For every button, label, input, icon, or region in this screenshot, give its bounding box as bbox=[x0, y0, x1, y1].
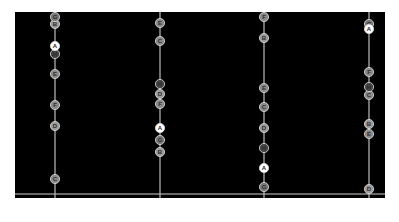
svg-text:E: E bbox=[262, 85, 266, 91]
axis-label-fuel: Fuel bbox=[255, 200, 273, 211]
svg-text:A: A bbox=[262, 165, 267, 171]
svg-text:A: A bbox=[367, 26, 372, 32]
marker-d-fuel: D bbox=[259, 123, 268, 132]
marker-g-fuel: G bbox=[259, 182, 268, 191]
marker-e-fuel: E bbox=[259, 83, 268, 92]
marker-f-detection: F bbox=[364, 67, 373, 76]
marker-e-quality: E bbox=[50, 69, 59, 78]
svg-text:F: F bbox=[262, 14, 266, 20]
svg-text:C: C bbox=[262, 104, 267, 110]
svg-text:H: H bbox=[262, 145, 266, 151]
svg-text:C: C bbox=[53, 176, 58, 182]
marker-h-time: H bbox=[155, 79, 164, 88]
svg-text:G: G bbox=[53, 14, 58, 20]
marker-f-quality: F bbox=[50, 100, 59, 109]
svg-text:H: H bbox=[53, 51, 57, 57]
marker-f-time: F bbox=[155, 99, 164, 108]
marker-e-detection: E bbox=[364, 129, 373, 138]
marker-b-fuel: B bbox=[259, 33, 268, 42]
svg-text:H: H bbox=[367, 84, 371, 90]
marker-a-quality: A bbox=[50, 41, 59, 50]
marker-g-quality: G bbox=[50, 12, 59, 21]
marker-b-time: B bbox=[155, 147, 164, 156]
svg-text:B: B bbox=[158, 149, 163, 155]
svg-text:B: B bbox=[53, 21, 58, 27]
svg-text:A: A bbox=[53, 43, 58, 49]
svg-text:E: E bbox=[367, 131, 371, 137]
svg-text:D: D bbox=[158, 91, 163, 97]
svg-text:G: G bbox=[262, 184, 267, 190]
marker-c-time: C bbox=[155, 36, 164, 45]
marker-a-detection: A bbox=[364, 24, 373, 33]
svg-text:F: F bbox=[53, 102, 57, 108]
marker-f-fuel: F bbox=[259, 12, 268, 21]
plot-area bbox=[15, 12, 385, 198]
svg-text:D: D bbox=[367, 186, 372, 192]
marker-d-quality: D bbox=[50, 121, 59, 130]
svg-text:B: B bbox=[367, 121, 372, 127]
axis-label-detection: Detection bbox=[349, 200, 389, 211]
marker-h-fuel: H bbox=[259, 143, 268, 152]
axis-label-time: Time bbox=[150, 200, 171, 211]
svg-text:A: A bbox=[158, 125, 163, 131]
parallel-coordinates-chart: QualityTimeFuelDetection BBBBCCCCDDDDEEE… bbox=[0, 0, 399, 222]
svg-text:F: F bbox=[158, 101, 162, 107]
marker-e-time: E bbox=[155, 18, 164, 27]
svg-text:D: D bbox=[53, 123, 58, 129]
marker-a-time: A bbox=[155, 123, 164, 132]
svg-text:H: H bbox=[158, 81, 162, 87]
svg-text:G: G bbox=[158, 137, 163, 143]
marker-a-fuel: A bbox=[259, 163, 268, 172]
marker-h-detection: H bbox=[364, 82, 373, 91]
svg-text:E: E bbox=[158, 20, 162, 26]
axis-label-quality: Quality bbox=[40, 200, 70, 211]
svg-text:F: F bbox=[367, 69, 371, 75]
marker-c-quality: C bbox=[50, 174, 59, 183]
marker-d-time: D bbox=[155, 89, 164, 98]
svg-text:C: C bbox=[158, 38, 163, 44]
svg-text:E: E bbox=[53, 71, 57, 77]
marker-g-time: G bbox=[155, 135, 164, 144]
svg-text:C: C bbox=[367, 92, 372, 98]
svg-text:D: D bbox=[262, 125, 267, 131]
marker-d-detection: D bbox=[364, 184, 373, 193]
svg-text:B: B bbox=[262, 35, 267, 41]
marker-c-fuel: C bbox=[259, 102, 268, 111]
marker-b-detection: B bbox=[364, 119, 373, 128]
